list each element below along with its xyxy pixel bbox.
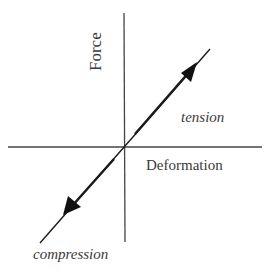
compression-arrow-shaft — [72, 159, 114, 206]
deformation-axis-label: Deformation — [146, 157, 223, 173]
force-axis-label: Force — [86, 32, 105, 71]
force-axis — [124, 13, 125, 242]
force-deformation-diagram: Force tension Deformation compression — [0, 0, 275, 276]
compression-label: compression — [33, 246, 108, 262]
tension-label: tension — [181, 109, 224, 125]
